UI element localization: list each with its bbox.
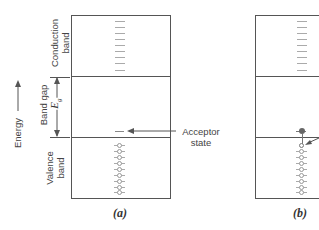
energy-arrow-icon: [14, 80, 22, 112]
gap-bottom-tick: [50, 137, 70, 138]
conduction-band-edge: [71, 76, 171, 77]
valence-band-label-line2: band: [56, 148, 66, 188]
hole-icon: [299, 143, 304, 148]
panel-b-frame: [255, 15, 319, 199]
conduction-band-label-line1: Conduction: [50, 18, 60, 68]
panel-b-caption: (b): [293, 206, 307, 221]
eg-symbol: Eg: [48, 97, 63, 109]
conduction-band-label-line2: band: [61, 18, 71, 68]
acceptor-state-level: [115, 131, 124, 132]
energy-label: Energy: [13, 113, 23, 153]
valence-band-label-line1: Valence: [45, 148, 55, 188]
arrow-left-icon: [127, 127, 177, 135]
acceptor-label: Acceptor state: [176, 126, 226, 148]
conduction-band-edge-b: [255, 76, 319, 77]
hole-arrow-icon: [305, 136, 319, 146]
valence-band-edge: [71, 137, 171, 138]
gap-top-tick: [50, 77, 70, 78]
panel-a-caption: (a): [113, 206, 127, 221]
